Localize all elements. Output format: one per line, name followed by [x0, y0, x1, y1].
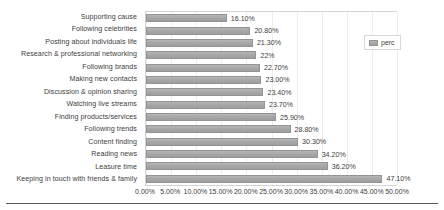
bar-row: 28.80% — [146, 123, 397, 135]
bar-value-label: 30.30% — [302, 139, 326, 146]
x-tick-label: 25.00% — [259, 188, 283, 195]
category-label: Research & professional networking — [0, 49, 141, 62]
category-label: Supporting cause — [0, 11, 141, 24]
bar — [146, 76, 261, 84]
category-label: Watching live streams — [0, 99, 141, 112]
legend-swatch-perc — [369, 40, 378, 46]
bar-row: 25.90% — [146, 111, 397, 123]
bar — [146, 150, 318, 158]
x-tick-label: 35.00% — [310, 188, 334, 195]
bar-row: 22% — [146, 49, 397, 61]
bar-row: 30.30% — [146, 136, 397, 148]
plot-area: 16.10%20.80%21.30%22%22.70%23.00%23.40%2… — [145, 11, 397, 186]
legend-label-perc: perc — [381, 39, 395, 46]
bar — [146, 88, 263, 96]
bar-value-label: 47.10% — [386, 176, 410, 183]
x-tick-label: 5.00% — [160, 188, 180, 195]
bar — [146, 39, 253, 47]
bar-value-label: 20.80% — [254, 27, 278, 34]
x-tick-label: 10.00% — [184, 188, 208, 195]
category-label: Keeping in touch with friends & family — [0, 174, 141, 187]
bar-value-label: 23.70% — [269, 102, 293, 109]
bar-row: 34.20% — [146, 148, 397, 160]
bar — [146, 125, 291, 133]
bar-value-label: 34.20% — [322, 151, 346, 158]
bar-value-label: 22% — [260, 52, 274, 59]
category-label: Reading news — [0, 149, 141, 162]
bar-row: 23.00% — [146, 74, 397, 86]
value-axis: 0.00%5.00%10.00%15.00%20.00%25.00%30.00%… — [145, 188, 397, 200]
bar-value-label: 36.20% — [332, 163, 356, 170]
bar — [146, 101, 265, 109]
bar — [146, 138, 298, 146]
category-label: Following brands — [0, 61, 141, 74]
category-label: Following celebrities — [0, 24, 141, 37]
bar-value-label: 21.30% — [257, 40, 281, 47]
bar-value-label: 25.90% — [280, 114, 304, 121]
bar-value-label: 16.10% — [231, 15, 255, 22]
x-tick-label: 15.00% — [209, 188, 233, 195]
bar-row: 47.10% — [146, 173, 397, 185]
x-tick-label: 40.00% — [335, 188, 359, 195]
bar-row: 36.20% — [146, 160, 397, 172]
category-label: Following trends — [0, 124, 141, 137]
category-label: Discussion & opinion sharing — [0, 86, 141, 99]
bar-row: 22.70% — [146, 61, 397, 73]
x-tick-label: 0.00% — [135, 188, 155, 195]
bar-value-label: 23.00% — [265, 77, 289, 84]
bar-value-label: 23.40% — [267, 89, 291, 96]
bar-row: 21.30% — [146, 37, 397, 49]
x-tick-label: 30.00% — [284, 188, 308, 195]
bar-chart: Supporting causeFollowing celebritiesPos… — [0, 0, 444, 210]
category-label: Making new contacts — [0, 74, 141, 87]
bar — [146, 162, 328, 170]
bar-value-label: 28.80% — [295, 126, 319, 133]
chart-legend[interactable]: perc — [364, 35, 401, 50]
bar-value-label: 22.70% — [264, 65, 288, 72]
category-label: Leasure time — [0, 161, 141, 174]
bar-row: 23.40% — [146, 86, 397, 98]
category-label: Posting about individuals life — [0, 36, 141, 49]
bar — [146, 175, 382, 183]
bar-row: 20.80% — [146, 24, 397, 36]
bar — [146, 51, 256, 59]
bar — [146, 113, 276, 121]
category-label: Finding products/services — [0, 111, 141, 124]
bar-series-perc: 16.10%20.80%21.30%22%22.70%23.00%23.40%2… — [146, 12, 397, 185]
category-label: Content finding — [0, 136, 141, 149]
bar-row: 23.70% — [146, 99, 397, 111]
x-tick-label: 50.00% — [385, 188, 409, 195]
x-tick-label: 45.00% — [360, 188, 384, 195]
bar — [146, 27, 250, 35]
bar — [146, 14, 227, 22]
category-axis: Supporting causeFollowing celebritiesPos… — [0, 11, 141, 186]
bar — [146, 64, 260, 72]
bottom-divider — [6, 203, 438, 204]
x-tick-label: 20.00% — [234, 188, 258, 195]
bar-row: 16.10% — [146, 12, 397, 24]
